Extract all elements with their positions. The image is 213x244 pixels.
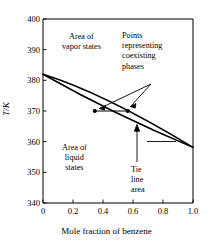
annotation-tie-line1: Tie [131,165,145,175]
y-tick-label-360: 360 [12,138,40,147]
y-tick-label-350: 350 [12,168,40,177]
y-tick-label-370: 370 [12,107,40,116]
annotation-points-line1: Points [122,31,162,41]
annotation-liquid-line1: Area of [62,143,87,153]
x-tick-label-04: 0.4 [91,207,115,216]
annotation-tie-line3: area [131,185,145,195]
phase-diagram-figure: 400 390 380 370 360 350 340 0 0.2 0.4 0.… [0,0,213,244]
y-tick-label-380: 380 [12,76,40,85]
points-leader-arrows [100,84,152,110]
y-tick-label-400: 400 [12,15,40,24]
annotation-vapor-line1: Area of [62,32,101,42]
x-tick-label-02: 0.2 [61,207,85,216]
x-tick-label-10: 1.0 [181,207,205,216]
annotation-vapor-region: Area of vapor states [62,32,101,52]
annotation-liquid-region: Area of liquid states [62,143,87,174]
annotation-points-line3: coexisting [122,51,162,61]
x-tick-label-08: 0.8 [151,207,175,216]
tie-line-arrow [134,125,139,163]
annotation-tie-line2: line [131,175,145,185]
annotation-points-line4: phases [122,62,162,72]
annotation-tie-line-area: Tie line area [131,165,145,196]
y-axis-title: T/K [1,91,11,127]
y-tick-label-390: 390 [12,46,40,55]
x-axis-title: Mole fraction of benzene [0,226,213,236]
x-tick-label-0: 0 [31,207,55,216]
annotation-vapor-line2: vapor states [62,42,101,52]
y-axis-ticks [43,19,47,203]
annotation-points-line2: representing [122,41,162,51]
x-axis-ticks [43,200,193,204]
annotation-coexisting-points: Points representing coexisting phases [122,31,162,72]
x-tick-label-06: 0.6 [121,207,145,216]
annotation-liquid-line3: states [62,163,87,173]
annotation-liquid-line2: liquid [62,153,87,163]
